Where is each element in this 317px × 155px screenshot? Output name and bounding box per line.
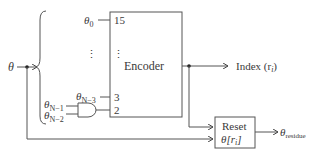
feedback-line bbox=[27, 67, 213, 139]
pin-ellipsis: ⋮ bbox=[113, 48, 124, 60]
pin-15: 15 bbox=[114, 14, 126, 26]
theta0-label: θ0 bbox=[84, 14, 93, 29]
input-ellipsis: ⋮ bbox=[86, 48, 97, 60]
encoder-diagram: θ Encoder θ0 15 ⋮ ⋮ θN−3 3 θN−1 θN−2 2 I… bbox=[0, 0, 317, 155]
and-gate-icon bbox=[78, 103, 96, 117]
index-label: Index (ri) bbox=[236, 60, 277, 74]
encoder-label: Encoder bbox=[124, 59, 164, 73]
index-to-reset-line bbox=[189, 66, 213, 127]
theta-input-label: θ bbox=[8, 60, 14, 74]
reset-theta-label: θ[ri] bbox=[221, 133, 241, 147]
pin-3: 3 bbox=[114, 91, 120, 103]
reset-label: Reset bbox=[222, 120, 246, 132]
pin-2: 2 bbox=[114, 104, 120, 116]
residue-label: θresidue bbox=[280, 126, 306, 140]
